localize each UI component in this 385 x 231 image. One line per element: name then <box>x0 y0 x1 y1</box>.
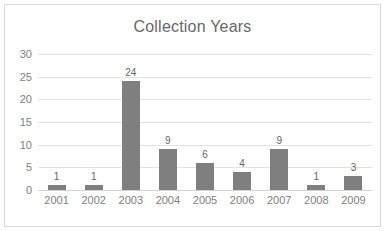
x-axis-tick-label: 2008 <box>304 194 328 206</box>
x-axis-tick-label: 2001 <box>44 194 68 206</box>
bar[interactable] <box>122 81 140 190</box>
bar-slot: 1 <box>298 54 335 190</box>
y-axis-tick-label: 10 <box>0 139 32 151</box>
y-axis-tick-label: 30 <box>0 48 32 60</box>
bar-slot: 3 <box>335 54 372 190</box>
chart-title: Collection Years <box>0 18 385 36</box>
y-axis-tick-label: 20 <box>0 93 32 105</box>
bar[interactable] <box>344 176 362 190</box>
bar-slot: 1 <box>38 54 75 190</box>
y-axis-tick-label: 0 <box>0 184 32 196</box>
bar-slot: 6 <box>186 54 223 190</box>
bar[interactable] <box>85 185 103 190</box>
x-axis: 200120022003200420052006200720082009 <box>38 194 372 214</box>
bar-slot: 4 <box>224 54 261 190</box>
bar-slot: 1 <box>75 54 112 190</box>
bar-value-label: 1 <box>91 171 97 182</box>
bar-slot: 9 <box>261 54 298 190</box>
bar-slot: 9 <box>149 54 186 190</box>
y-axis-tick-label: 25 <box>0 71 32 83</box>
bar-value-label: 9 <box>276 135 282 146</box>
bar-value-label: 1 <box>314 171 320 182</box>
plot-area: 1124964913 <box>38 54 372 190</box>
bar[interactable] <box>196 163 214 190</box>
bar[interactable] <box>233 172 251 190</box>
x-axis-tick-label: 2006 <box>230 194 254 206</box>
y-axis-tick-label: 15 <box>0 116 32 128</box>
y-axis: 051015202530 <box>0 54 34 190</box>
bar-value-label: 9 <box>165 135 171 146</box>
x-axis-tick-label: 2002 <box>81 194 105 206</box>
bar-value-label: 3 <box>351 162 357 173</box>
x-axis-tick-label: 2009 <box>341 194 365 206</box>
bar[interactable] <box>48 185 66 190</box>
x-axis-tick-label: 2005 <box>193 194 217 206</box>
bar[interactable] <box>270 149 288 190</box>
bar-value-label: 1 <box>54 171 60 182</box>
bar-value-label: 24 <box>125 67 136 78</box>
bar-value-label: 4 <box>239 158 245 169</box>
x-axis-tick-label: 2007 <box>267 194 291 206</box>
x-axis-tick-label: 2004 <box>156 194 180 206</box>
bar-slot: 24 <box>112 54 149 190</box>
axis-baseline <box>38 190 372 191</box>
x-axis-tick-label: 2003 <box>119 194 143 206</box>
bar[interactable] <box>159 149 177 190</box>
bar[interactable] <box>307 185 325 190</box>
chart-container: Collection Years 051015202530 1124964913… <box>0 0 385 231</box>
bar-value-label: 6 <box>202 149 208 160</box>
y-axis-tick-label: 5 <box>0 161 32 173</box>
